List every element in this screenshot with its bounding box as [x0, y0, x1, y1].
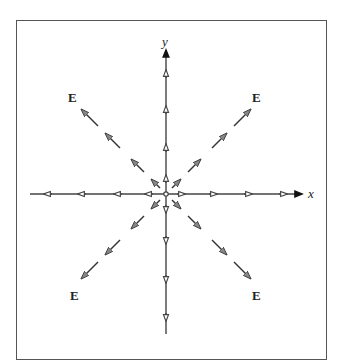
y-axis-label: y [160, 34, 168, 49]
field-label-top-left: E [68, 90, 77, 105]
x-axis-label: x [307, 186, 314, 201]
field-line-top-right [172, 110, 250, 188]
field-label-bottom-left: E [70, 288, 79, 303]
field-label-top-right: E [252, 90, 261, 105]
field-label-bottom-right: E [252, 288, 261, 303]
field-line-bottom-right [172, 200, 250, 278]
field-line-bottom-left [82, 200, 160, 278]
field-line-top-left [82, 110, 160, 188]
origin-charge [164, 192, 168, 196]
